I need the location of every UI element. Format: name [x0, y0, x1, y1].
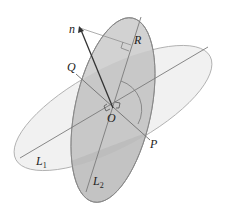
label-r: R — [133, 33, 142, 47]
label-n: n — [69, 22, 75, 36]
diagram-canvas: n R Q O P L1 L2 — [0, 0, 226, 206]
arrow-head-icon — [78, 26, 84, 33]
label-q: Q — [67, 60, 76, 74]
label-o: O — [107, 111, 116, 125]
label-p: P — [149, 137, 158, 151]
